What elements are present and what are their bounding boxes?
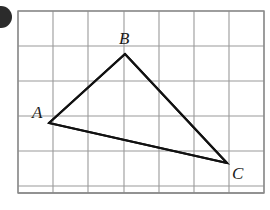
triangle-outline (49, 54, 227, 163)
grid-border-rect (18, 11, 264, 193)
grid (18, 11, 264, 193)
triangle-edge-ab (49, 54, 125, 123)
vertex-label-c: C (232, 165, 243, 182)
vertex-label-a: A (32, 104, 42, 121)
triangle-edge-bc (125, 54, 227, 163)
grid-border (18, 11, 264, 193)
vertex-label-b: B (119, 30, 129, 47)
triangle-edge-ca (49, 123, 227, 163)
corner-bullet-circle (0, 6, 12, 28)
corner-bullet-icon (0, 6, 12, 28)
triangle-abc (49, 54, 227, 163)
geometry-figure: A B C (0, 0, 270, 210)
